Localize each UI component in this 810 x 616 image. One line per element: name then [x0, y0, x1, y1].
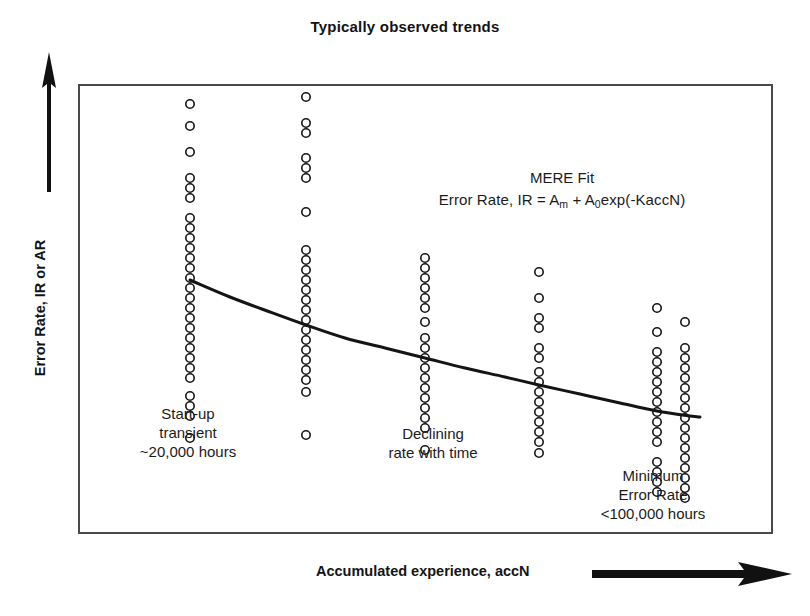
- annotation-declining: Declining rate with time: [358, 424, 508, 462]
- y-axis-label: Error Rate, IR or AR: [32, 208, 48, 408]
- x-axis-label: Accumulated experience, accN: [316, 563, 530, 579]
- annotation-startup-line3: ~20,000 hours: [104, 442, 272, 461]
- page-title: Typically observed trends: [0, 18, 810, 35]
- fit-equation-sub-0: 0: [595, 198, 601, 210]
- fit-title: MERE Fit: [392, 167, 732, 189]
- fit-equation-mid: + A: [568, 191, 595, 208]
- annotation-minimum-line3: <100,000 hours: [560, 504, 746, 523]
- annotation-startup-line1: Start-up: [104, 404, 272, 423]
- fit-equation-prefix: Error Rate, IR = A: [439, 191, 560, 208]
- annotation-declining-line1: Declining: [358, 424, 508, 443]
- annotation-startup-line2: transient: [104, 423, 272, 442]
- annotation-startup: Start-up transient ~20,000 hours: [104, 404, 272, 462]
- up-arrow-icon: [36, 52, 62, 192]
- annotation-minimum-line1: Minimum: [560, 466, 746, 485]
- chart-page: Typically observed trends Error Rate, IR…: [0, 0, 810, 616]
- fit-annotation: MERE Fit Error Rate, IR = Am + A0exp(-Ka…: [392, 167, 732, 211]
- fit-equation-sub-m: m: [559, 198, 568, 210]
- fit-equation-suffix: exp(-KaccN): [601, 191, 685, 208]
- annotation-minimum: Minimum Error Rate <100,000 hours: [560, 466, 746, 524]
- fit-equation: Error Rate, IR = Am + A0exp(-KaccN): [392, 189, 732, 211]
- right-arrow-icon: [592, 560, 792, 590]
- annotation-minimum-line2: Error Rate: [560, 485, 746, 504]
- annotation-declining-line2: rate with time: [358, 443, 508, 462]
